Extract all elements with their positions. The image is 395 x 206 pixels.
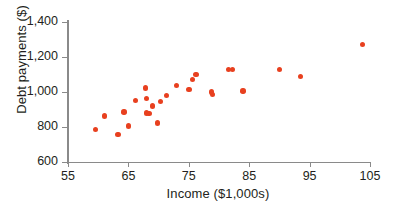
data-point [240, 88, 245, 93]
y-tick-label: 1,200 [27, 49, 58, 63]
data-point [150, 103, 155, 108]
data-point [190, 77, 195, 82]
scatter-chart: Debt payments ($) 6008001,0001,2001,400 … [0, 0, 395, 206]
x-tick [249, 162, 250, 167]
data-point [360, 42, 365, 47]
data-point [143, 85, 148, 90]
y-tick-label: 800 [37, 119, 58, 133]
plot-area [68, 22, 370, 162]
x-tick [68, 162, 69, 167]
x-tick-label: 95 [303, 169, 317, 183]
data-point [155, 120, 160, 125]
data-point [115, 132, 120, 137]
x-tick-label: 105 [360, 169, 381, 183]
data-point [230, 67, 235, 72]
x-axis-title: Income ($1,000s) [68, 186, 368, 201]
x-tick [310, 162, 311, 167]
data-point [277, 67, 282, 72]
data-point [158, 99, 163, 104]
x-tick-label: 75 [182, 169, 196, 183]
data-point [174, 83, 179, 88]
x-tick [128, 162, 129, 167]
data-point [193, 72, 198, 77]
data-point [102, 113, 107, 118]
y-tick-label: 1,400 [27, 14, 58, 28]
data-point [186, 87, 191, 92]
data-point [298, 74, 303, 79]
x-tick-label: 85 [242, 169, 256, 183]
data-point [144, 96, 149, 101]
y-tick-label: 600 [37, 154, 58, 168]
data-point [210, 92, 215, 97]
data-point [164, 93, 169, 98]
x-tick-label: 55 [61, 169, 75, 183]
data-point [121, 109, 126, 114]
data-point [133, 98, 138, 103]
data-point [93, 127, 98, 132]
x-tick [370, 162, 371, 167]
data-point [146, 111, 151, 116]
y-tick-label: 1,000 [27, 84, 58, 98]
x-tick-label: 65 [121, 169, 135, 183]
x-tick [189, 162, 190, 167]
data-point [126, 123, 131, 128]
